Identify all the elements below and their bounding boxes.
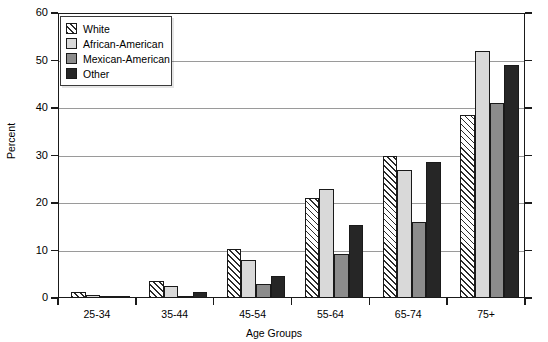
y-tick-10 [51, 250, 58, 252]
y-tick-label-0: 0 [24, 292, 48, 303]
y-tick-label-10: 10 [24, 245, 48, 256]
y-tick-right-10 [525, 250, 532, 252]
y-axis-title: Percent [5, 111, 17, 171]
bar-65-74-other [426, 162, 441, 298]
bar-25-34-african-american [86, 295, 101, 298]
y-tick-60 [51, 12, 58, 14]
bar-65-74-mexican-american [412, 222, 427, 298]
x-tick-5 [446, 298, 448, 305]
y-tick-20 [51, 202, 58, 204]
y-tick-50 [51, 60, 58, 62]
y-tick-right-0 [525, 297, 532, 299]
x-tick-2 [213, 298, 215, 305]
bar-45-54-white [227, 249, 242, 298]
y-tick-right-30 [525, 155, 532, 157]
y-tick-right-20 [525, 202, 532, 204]
bar-75+-white [460, 115, 475, 298]
bar-55-64-white [305, 198, 320, 298]
bar-75+-mexican-american [490, 103, 505, 298]
y-tick-label-30: 30 [24, 150, 48, 161]
bar-75+-african-american [475, 51, 490, 298]
y-tick-right-60 [525, 12, 532, 14]
legend-label: African-American [83, 38, 164, 50]
y-tick-30 [51, 155, 58, 157]
legend-swatch-icon-2 [66, 53, 77, 64]
legend-item-african-american: African-American [66, 36, 166, 51]
legend-swatch-icon-1 [66, 38, 77, 49]
bar-45-54-other [271, 276, 286, 298]
x-tick-label-25-34: 25-34 [58, 309, 136, 320]
legend-swatch-icon-0 [66, 23, 77, 34]
bar-25-34-mexican-american [100, 296, 115, 298]
x-tick-4 [369, 298, 371, 305]
legend-item-white: White [66, 21, 166, 36]
bar-35-44-african-american [164, 286, 179, 298]
bar-35-44-white [149, 281, 164, 298]
y-tick-label-50: 50 [24, 55, 48, 66]
x-tick-label-65-74: 65-74 [369, 309, 447, 320]
legend-item-mexican-american: Mexican-American [66, 51, 166, 66]
y-tick-label-60: 60 [24, 7, 48, 18]
legend-item-other: Other [66, 66, 166, 81]
bar-45-54-mexican-american [256, 284, 271, 298]
legend-label: Other [83, 68, 109, 80]
bar-65-74-african-american [397, 170, 412, 298]
bar-65-74-white [383, 156, 398, 298]
legend-swatch-icon-3 [66, 68, 77, 79]
x-tick-3 [291, 298, 293, 305]
bar-45-54-african-american [241, 260, 256, 298]
bar-75+-other [504, 65, 519, 298]
bar-55-64-african-american [319, 189, 334, 298]
bar-25-34-other [115, 296, 130, 298]
bar-25-34-white [71, 292, 86, 298]
x-tick-label-75+: 75+ [447, 309, 525, 320]
y-tick-right-40 [525, 107, 532, 109]
bar-55-64-other [349, 225, 364, 298]
x-tick-label-55-64: 55-64 [292, 309, 370, 320]
legend-label: Mexican-American [83, 53, 170, 65]
y-tick-right-50 [525, 60, 532, 62]
bar-35-44-mexican-american [178, 296, 193, 298]
bar-55-64-mexican-american [334, 254, 349, 298]
bar-chart: Percent 0102030405060 25-3435-4445-5455-… [0, 0, 548, 342]
y-tick-label-20: 20 [24, 197, 48, 208]
bar-35-44-other [193, 292, 208, 298]
chart-legend: WhiteAfrican-AmericanMexican-AmericanOth… [60, 16, 172, 86]
x-tick-label-35-44: 35-44 [136, 309, 214, 320]
x-tick-label-45-54: 45-54 [214, 309, 292, 320]
y-tick-label-40: 40 [24, 102, 48, 113]
y-tick-40 [51, 107, 58, 109]
x-tick-0 [57, 298, 59, 305]
x-tick-6 [524, 298, 526, 305]
x-tick-1 [135, 298, 137, 305]
legend-label: White [83, 23, 110, 35]
x-axis-title: Age Groups [0, 327, 548, 339]
